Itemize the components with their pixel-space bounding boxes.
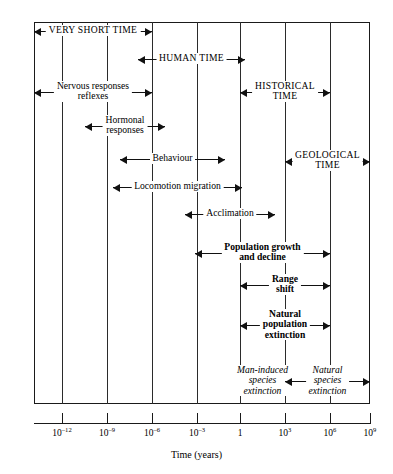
- arrow-left-icon: [120, 156, 127, 164]
- arrow-left-icon: [85, 123, 92, 131]
- tick--12: [62, 413, 63, 424]
- band-label-population-growth-and-decline: Population growthand decline: [221, 242, 303, 263]
- tick-label-9: 109: [364, 428, 377, 438]
- band-label-very-short-time: VERY SHORT TIME: [46, 25, 141, 36]
- tick-label-3: 103: [279, 428, 292, 438]
- x-axis-line: [34, 423, 370, 424]
- arrow-right-icon: [235, 184, 242, 192]
- tick-3: [285, 413, 286, 424]
- band-label-man-induced-species-extinction: Man-inducedspeciesextinction: [234, 365, 291, 397]
- arrow-right-icon: [363, 378, 370, 386]
- arrow-right-icon: [323, 250, 330, 258]
- arrow-right-icon: [323, 322, 330, 330]
- tick--9: [107, 413, 108, 424]
- arrow-right-icon: [363, 158, 370, 166]
- arrow-right-icon: [238, 56, 245, 64]
- arrow-left-icon: [195, 250, 202, 258]
- gridline-6: [330, 22, 331, 404]
- tick-9: [370, 413, 371, 424]
- arrow-right-icon: [323, 89, 330, 97]
- arrow-left-icon: [240, 89, 247, 97]
- band-label-nervous-responses-reflexes: Nervous responsesreflexes: [54, 81, 132, 102]
- tick-label--3: 10–3: [189, 428, 205, 438]
- arrow-left-icon: [285, 378, 292, 386]
- arrow-left-icon: [34, 89, 41, 97]
- gridline--6: [152, 22, 153, 404]
- arrow-left-icon: [240, 322, 247, 330]
- arrow-left-icon: [240, 282, 247, 290]
- arrow-left-icon: [285, 158, 292, 166]
- arrow-right-icon: [218, 156, 225, 164]
- arrow-left-icon: [113, 184, 120, 192]
- band-label-human-time: HUMAN TIME: [156, 53, 227, 64]
- band-label-acclimation: Acclimation: [203, 208, 256, 219]
- band-label-behaviour: Behaviour: [150, 153, 196, 164]
- tick-label-0: 1: [238, 428, 243, 438]
- band-label-geological-time: GEOLOGICALTIME: [292, 150, 363, 171]
- tick-label--9: 10–9: [99, 428, 115, 438]
- tick-label-6: 106: [324, 428, 337, 438]
- arrow-right-icon: [145, 28, 152, 36]
- band-label-natural-species-extinction: Naturalspeciesextinction: [306, 365, 350, 397]
- band-label-range-shift: Rangeshift: [269, 274, 301, 295]
- tick-6: [330, 413, 331, 424]
- x-axis-title: Time (years): [0, 449, 393, 460]
- time-scales-diagram: VERY SHORT TIMEHUMAN TIMENervous respons…: [0, 0, 393, 474]
- arrow-right-icon: [145, 89, 152, 97]
- arrow-left-icon: [138, 56, 145, 64]
- arrow-right-icon: [158, 123, 165, 131]
- band-label-historical-time: HISTORICALTIME: [252, 81, 318, 102]
- tick-0: [240, 413, 241, 424]
- arrow-right-icon: [323, 282, 330, 290]
- band-label-natural-population-extinction: Naturalpopulationextinction: [260, 309, 310, 341]
- band-label-hormonal-responses: Hormonalresponses: [103, 115, 148, 136]
- arrow-right-icon: [268, 211, 275, 219]
- tick--3: [197, 413, 198, 424]
- arrow-left-icon: [185, 211, 192, 219]
- tick--6: [152, 413, 153, 424]
- tick-label--12: 10–12: [52, 428, 71, 438]
- arrow-left-icon: [34, 28, 41, 36]
- gridline--3: [197, 22, 198, 404]
- tick-label--6: 10–6: [144, 428, 160, 438]
- band-label-locomotion-migration: Locomotion migration: [131, 181, 224, 192]
